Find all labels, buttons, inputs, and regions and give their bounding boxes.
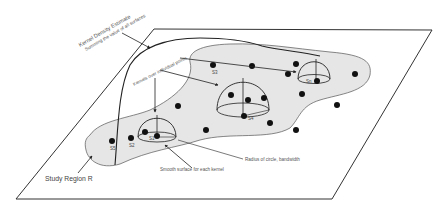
label-s2: S2 [129,143,135,148]
radius-label: Radius of circle, bandwidth [245,157,300,162]
kde-subtitle-label: Summing the value of all surfaces [84,13,147,52]
label-sn: Sn [306,79,312,84]
kernel-density-diagram: S5 S2 S1 S4 S3 Sn Kernel Density Estimat… [0,0,444,212]
smooth-surface-label: Smooth surface for each kernel [160,167,224,172]
label-s4: S4 [248,116,254,121]
label-s5: S5 [110,146,116,151]
label-s1: S1 [149,136,155,141]
study-region-label: Study Region R [45,175,93,183]
label-s3: S3 [212,70,218,75]
